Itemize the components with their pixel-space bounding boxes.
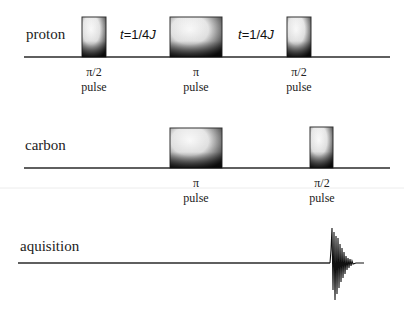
proton-pulse-1-label: π/2 pulse [69,65,119,95]
pulse-angle: π/2 [69,65,119,80]
carbon-pulse-1-label: π pulse [171,176,221,206]
delay-value: =1/4 [124,27,150,42]
carbon-pulse-2-label: π/2 pulse [297,176,347,206]
pulse-word: pulse [69,80,119,95]
pulse-sequence-diagram: proton carbon aquisition t=1/4J t=1/4J π… [0,0,404,315]
pulse-word: pulse [171,80,221,95]
pulse-angle: π/2 [297,176,347,191]
proton-pulse-pi-half-1 [82,17,106,57]
pulse-angle: π/2 [274,65,324,80]
channel-label-carbon: carbon [25,137,66,154]
delay-unit: J [149,27,156,42]
pulse-sequence-graphic [0,0,404,315]
pulse-word: pulse [297,191,347,206]
pulse-word: pulse [274,80,324,95]
carbon-pulse-pi [170,128,222,168]
delay-value: =1/4 [242,27,268,42]
proton-pulse-pi-half-2 [287,17,311,57]
proton-pulse-2-label: π pulse [171,65,221,95]
pulse-angle: π [171,65,221,80]
proton-pulse-3-label: π/2 pulse [274,65,324,95]
delay-label-1: t=1/4J [120,27,156,42]
pulse-angle: π [171,176,221,191]
fid-signal [330,228,364,300]
pulse-word: pulse [171,191,221,206]
carbon-pulse-pi-half [310,127,333,168]
proton-pulse-pi [170,17,222,57]
delay-label-2: t=1/4J [238,27,274,42]
channel-label-proton: proton [26,26,65,43]
delay-unit: J [267,27,274,42]
channel-label-aquisition: aquisition [20,238,79,255]
